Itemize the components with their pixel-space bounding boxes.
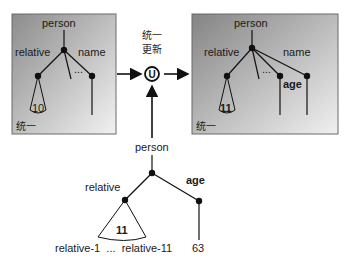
left-ellipsis: ... [74,63,83,75]
right-caption: 统一 [196,120,216,132]
left-count: 10 [32,102,44,114]
left-root-label: person [42,17,76,29]
right-relative-label: relative [204,46,239,58]
union-symbol: U [149,69,156,80]
operator-label-1: 统一 [142,29,162,41]
right-root-label: person [234,17,268,29]
operator-label-2: 更新 [142,43,162,55]
bottom-leaf-relatives: relative-1 ... relative-11 [55,242,172,254]
bottom-relative-label: relative [85,181,120,193]
right-feature-structure: person relative name ... age 11 统一 [192,14,338,134]
unify-operator: 统一 更新 U [117,29,188,138]
right-age-label: age [283,78,302,90]
left-relative-label: relative [15,46,50,58]
unification-diagram: person relative name ... 10 统一 统一 更新 U p… [0,0,349,267]
bottom-count: 11 [116,224,128,236]
bottom-age-label: age [186,174,205,186]
bottom-root-label: person [135,141,169,153]
right-count: 11 [220,102,232,114]
left-name-label: name [78,46,106,58]
bottom-feature-structure: person relative age 11 relative-1 ... re… [55,141,205,254]
right-ellipsis: ... [262,63,271,75]
left-feature-structure: person relative name ... 10 统一 [12,14,116,134]
right-name-label: name [283,46,311,58]
left-caption: 统一 [16,120,36,132]
bottom-leaf-age: 63 [192,242,204,254]
